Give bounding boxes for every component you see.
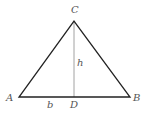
label-d: D [69,99,78,110]
triangle-diagram: C A B D b h [0,0,148,114]
label-a: A [5,92,13,103]
label-b: B [132,92,140,103]
triangle-abc [19,21,130,97]
label-height-h: h [77,57,83,68]
label-c: C [71,4,79,15]
label-base-b: b [47,99,53,110]
